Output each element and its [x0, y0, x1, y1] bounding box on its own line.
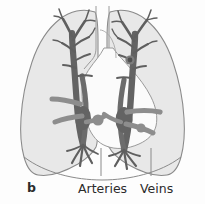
vein-node-right	[92, 114, 103, 125]
branch-l-7	[117, 77, 131, 78]
vein-node-left-lateral	[136, 123, 145, 132]
vein-branch-l-1	[127, 111, 160, 113]
branch-r-7	[78, 75, 92, 76]
branch-l-2b	[112, 21, 122, 22]
lung-diagram-svg	[0, 0, 205, 204]
lung-vasculature-figure: b Arteries Veins	[0, 0, 205, 204]
branch-r-2b	[85, 20, 95, 21]
vein-node-left-inner	[128, 58, 133, 63]
